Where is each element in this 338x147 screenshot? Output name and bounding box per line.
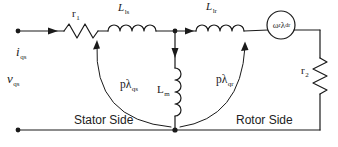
rotor-right-branch — [313, 30, 327, 130]
current-arrow-rotor — [185, 28, 194, 35]
label-stator-voltage: vqs — [7, 72, 19, 85]
label-stator-side: Stator Side — [74, 113, 133, 127]
equivalent-circuit-figure: iqs vqs r1 Lls Llr ωrλdr Lm r2 pλqs pλqr… — [0, 0, 338, 147]
label-emf-source: ωrλdr — [267, 11, 296, 39]
label-resistor-r2: r2 — [301, 65, 308, 76]
label-flux-qr: pλqr — [216, 74, 233, 86]
label-inductor-lls: Lls — [118, 2, 129, 13]
resistor-r1 — [64, 24, 98, 38]
top-left-wire — [16, 28, 64, 35]
label-stator-current: iqs — [16, 45, 26, 58]
inductor-lls — [108, 25, 156, 31]
label-flux-qs: pλqs — [120, 79, 138, 91]
inductor-llr — [196, 25, 244, 31]
label-rotor-side: Rotor Side — [236, 113, 293, 127]
label-inductor-lm: Lm — [157, 84, 169, 95]
magnetizing-branch — [172, 31, 182, 130]
label-inductor-llr: Llr — [206, 1, 216, 12]
flux-arrow-qs-head — [93, 40, 100, 50]
flux-arrow-qr-head — [241, 42, 249, 52]
current-arrow-magnetizing — [172, 48, 179, 58]
inductor-lm — [175, 68, 181, 116]
label-resistor-r1: r1 — [72, 8, 79, 19]
current-arrow-iqs — [48, 28, 58, 35]
bottom-rail — [16, 127, 320, 132]
resistor-r2 — [313, 58, 327, 94]
